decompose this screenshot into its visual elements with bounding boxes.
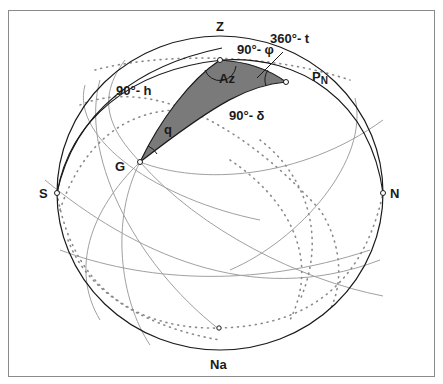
label-azimuth: Az	[219, 72, 235, 85]
label-star: G	[115, 160, 125, 173]
label-parallactic: q	[164, 123, 172, 136]
label-pole: PN	[312, 70, 328, 86]
label-pole-main: P	[312, 69, 321, 84]
south-point	[55, 191, 60, 196]
pole-point	[284, 80, 289, 85]
zenith-point	[218, 58, 223, 63]
label-colatitude: 90°- φ	[237, 43, 274, 56]
celestial-sphere	[0, 0, 443, 384]
label-north: N	[390, 187, 399, 200]
star-point	[138, 160, 143, 165]
label-zenith: Z	[216, 20, 224, 33]
label-polar-distance: 90°- δ	[229, 109, 264, 122]
label-hour-angle: 360°- t	[270, 32, 309, 45]
label-south: S	[39, 187, 48, 200]
label-nadir: Na	[210, 358, 227, 371]
north-point	[381, 191, 386, 196]
nadir-point	[217, 326, 221, 330]
diagram-canvas: Z 90°- φ 360°- t PN Az 90°- h 90°- δ q G…	[0, 0, 443, 384]
label-pole-sub: N	[321, 75, 328, 86]
label-zenith-distance: 90°- h	[116, 84, 152, 97]
